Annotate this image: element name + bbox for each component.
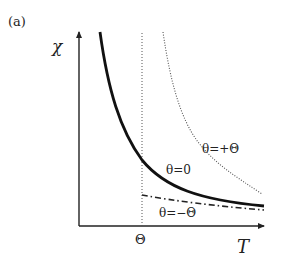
chart-canvas [0,0,283,266]
y-axis-label: χ [52,36,62,56]
label-theta-minus: θ=−Θ [159,206,196,220]
x-tick-theta: Θ [135,232,146,247]
curve-theta-zero [100,32,264,206]
label-theta-zero: θ=0 [166,163,191,177]
panel-label: (a) [8,14,26,29]
label-theta-plus: θ=+Θ [202,142,239,156]
x-axis-label: T [237,236,249,257]
